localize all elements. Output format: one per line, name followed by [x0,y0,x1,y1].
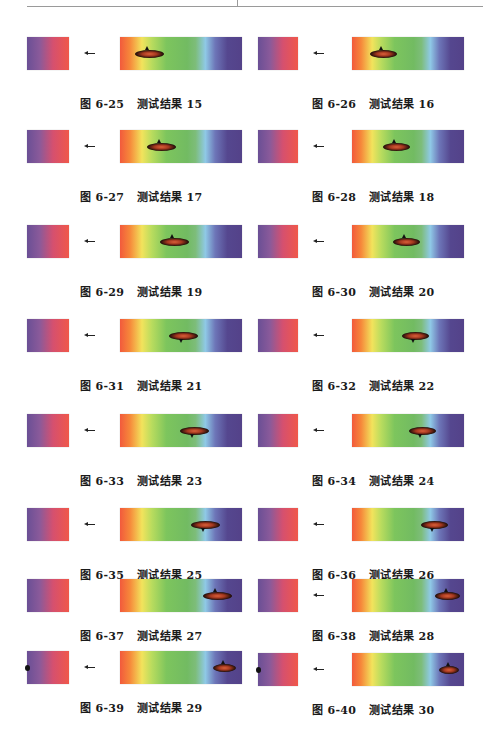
figure-title: 测试结果 18 [369,191,434,204]
marker-tip-icon [411,339,415,343]
marker-tip-icon [379,46,383,50]
figure-caption: 图 6-30测试结果 20 [312,283,434,299]
test-marker-blob [370,50,397,58]
reference-swatch [258,414,298,447]
arrow-left-icon [313,52,324,55]
reference-swatch [258,319,298,352]
reference-swatch [258,37,298,70]
reference-swatch [258,653,298,686]
figure-caption: 图 6-26测试结果 16 [312,95,434,111]
header-rule-tick [237,0,238,7]
figure-6-32: 图 6-32测试结果 22 [0,319,501,389]
spectrum-bar [352,414,464,447]
figure-number: 图 6-40 [312,704,356,717]
figure-6-34: 图 6-34测试结果 24 [0,414,501,484]
marker-tip-icon [392,139,396,143]
test-marker-blob [421,521,448,529]
figure-6-30: 图 6-30测试结果 20 [0,225,501,295]
spectrum-bar [352,579,464,612]
arrow-left-icon [313,429,324,432]
arrow-left-icon [313,145,324,148]
figure-number: 图 6-32 [312,380,356,393]
figure-number: 图 6-28 [312,191,356,204]
reference-swatch [258,225,298,258]
test-marker-blob [439,666,459,674]
arrow-left-icon [313,668,324,671]
spectrum-bar [352,130,464,163]
figure-6-40: 图 6-40测试结果 30 [0,653,501,723]
arrow-left-icon [313,240,324,243]
test-marker-blob [435,592,460,600]
figure-6-38: 图 6-38测试结果 28 [0,579,501,649]
spectrum-bar [352,37,464,70]
figure-number: 图 6-26 [312,98,356,111]
figure-number: 图 6-34 [312,475,356,488]
test-marker-blob [402,332,429,340]
spectrum-bar [352,508,464,541]
spectrum-bar [352,653,464,686]
reference-swatch [258,579,298,612]
arrow-left-icon [313,594,324,597]
test-marker-blob [409,427,436,435]
figure-title: 测试结果 28 [369,630,434,643]
figure-number: 图 6-30 [312,286,356,299]
test-marker-blob [393,238,420,246]
figure-6-28: 图 6-28测试结果 18 [0,130,501,200]
figure-title: 测试结果 30 [369,704,434,717]
header-rule [27,6,483,7]
marker-tip-icon [418,434,422,438]
marker-tip-icon [430,528,434,532]
spectrum-bar [352,225,464,258]
reference-swatch [258,508,298,541]
arrow-left-icon [313,523,324,526]
figure-caption: 图 6-38测试结果 28 [312,627,434,643]
figure-caption: 图 6-40测试结果 30 [312,701,434,717]
test-marker-blob [383,143,410,151]
marker-tip-icon [446,662,450,666]
marker-tip-icon [402,234,406,238]
figure-number: 图 6-38 [312,630,356,643]
figure-title: 测试结果 16 [369,98,434,111]
spectrum-bar [352,319,464,352]
edge-marker [256,667,261,673]
marker-tip-icon [444,588,448,592]
figure-caption: 图 6-32测试结果 22 [312,377,434,393]
arrow-left-icon [313,334,324,337]
figure-title: 测试结果 24 [369,475,434,488]
figure-title: 测试结果 20 [369,286,434,299]
reference-swatch [258,130,298,163]
figure-title: 测试结果 22 [369,380,434,393]
figure-6-36: 图 6-36测试结果 26 [0,508,501,578]
figure-caption: 图 6-34测试结果 24 [312,472,434,488]
figure-caption: 图 6-28测试结果 18 [312,188,434,204]
figure-6-26: 图 6-26测试结果 16 [0,37,501,107]
